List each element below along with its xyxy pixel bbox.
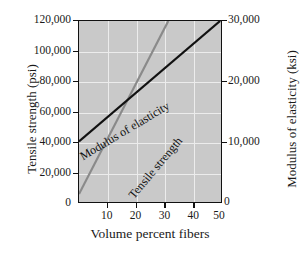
y-axis-title: Tensile strength (psi) bbox=[24, 24, 40, 214]
x-axis-tick-label: 30 bbox=[159, 209, 171, 221]
x-axis-tick-label: 50 bbox=[213, 209, 225, 221]
y-axis-tick-label: 60,000 bbox=[39, 106, 71, 118]
y2-axis-tick-label-origin: 0 bbox=[224, 196, 230, 208]
x-axis-tick bbox=[136, 203, 137, 208]
y2-axis-tick bbox=[222, 20, 227, 21]
figure-container: Modulus of elasticity Tensile strength 1… bbox=[0, 0, 302, 263]
x-axis-tick-label: 40 bbox=[187, 209, 199, 221]
plot-area: Modulus of elasticity Tensile strength bbox=[78, 20, 222, 203]
x-axis-tick bbox=[164, 203, 165, 208]
x-axis-tick bbox=[107, 203, 108, 208]
y-axis-tick bbox=[73, 51, 78, 52]
x-axis-tick-label: 20 bbox=[130, 209, 142, 221]
y-axis-tick bbox=[73, 81, 78, 82]
x-axis-title: Volume percent fibers bbox=[78, 226, 222, 242]
x-axis-tick-label: 10 bbox=[101, 209, 113, 221]
y2-axis-tick bbox=[222, 142, 227, 143]
y-axis-tick bbox=[73, 142, 78, 143]
y-axis-tick bbox=[73, 20, 78, 21]
y-axis-tick-label: 80,000 bbox=[39, 75, 71, 87]
y2-axis-tick-label: 10,000 bbox=[228, 136, 260, 148]
x-axis-tick bbox=[193, 203, 194, 208]
y-axis-tick-label: 20,000 bbox=[39, 167, 71, 179]
y-axis-tick-label: 40,000 bbox=[39, 136, 71, 148]
y-axis-tick-label-origin: 0 bbox=[65, 197, 71, 209]
y2-axis-tick bbox=[222, 81, 227, 82]
y-axis-tick bbox=[73, 112, 78, 113]
y-axis-tick bbox=[73, 173, 78, 174]
y2-axis-tick-label: 20,000 bbox=[228, 75, 260, 87]
y2-axis-tick-label: 30,000 bbox=[228, 14, 260, 26]
y2-axis-title: Modulus of elasticity (ksi) bbox=[284, 24, 300, 214]
